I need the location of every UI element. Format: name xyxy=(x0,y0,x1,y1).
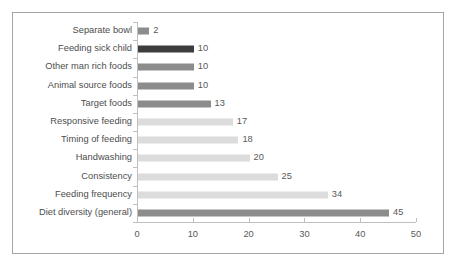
bar-value-label: 2 xyxy=(153,26,158,35)
x-axis-tick xyxy=(137,218,138,222)
y-axis-tick xyxy=(133,222,137,223)
y-axis-tick xyxy=(133,113,137,114)
bar xyxy=(138,191,328,198)
category-label: Separate bowl xyxy=(14,26,132,35)
y-axis-tick xyxy=(133,167,137,168)
bar-value-label: 34 xyxy=(332,190,342,199)
y-axis-tick xyxy=(133,95,137,96)
y-axis-tick xyxy=(133,149,137,150)
bar xyxy=(138,155,250,162)
bar xyxy=(138,46,194,53)
x-axis-tick-label: 40 xyxy=(345,230,375,239)
x-axis-tick xyxy=(360,218,361,222)
x-axis-tick xyxy=(193,218,194,222)
category-label: Target foods xyxy=(14,99,132,108)
bar-value-label: 10 xyxy=(198,63,208,72)
bar xyxy=(138,82,194,89)
bar-value-label: 18 xyxy=(242,136,252,145)
y-axis-tick xyxy=(133,58,137,59)
category-label: Handwashing xyxy=(14,154,132,163)
y-axis-tick xyxy=(133,22,137,23)
category-label: Animal source foods xyxy=(14,81,132,90)
bar xyxy=(138,137,238,144)
x-axis-line xyxy=(137,222,416,223)
category-label: Consistency xyxy=(14,172,132,181)
x-axis-tick-label: 0 xyxy=(122,230,152,239)
x-axis-tick xyxy=(304,218,305,222)
bar-value-label: 25 xyxy=(282,172,292,181)
x-axis-tick-label: 50 xyxy=(401,230,431,239)
bar xyxy=(138,64,194,71)
y-axis-tick xyxy=(133,204,137,205)
y-axis-tick xyxy=(133,77,137,78)
category-label: Diet diversity (general) xyxy=(14,208,132,217)
y-axis-tick xyxy=(133,40,137,41)
bar-value-label: 45 xyxy=(393,208,403,217)
category-label: Feeding sick child xyxy=(14,45,132,54)
bar-value-label: 10 xyxy=(198,81,208,90)
y-axis-tick xyxy=(133,131,137,132)
bar-chart: 01020304050 Separate bowlFeeding sick ch… xyxy=(0,0,456,267)
bar-value-label: 10 xyxy=(198,45,208,54)
x-axis-tick xyxy=(416,218,417,222)
bar-value-label: 17 xyxy=(237,117,247,126)
bar xyxy=(138,100,211,107)
category-label: Timing of feeding xyxy=(14,136,132,145)
x-axis-tick xyxy=(249,218,250,222)
bar xyxy=(138,119,233,126)
category-label: Feeding frequency xyxy=(14,190,132,199)
category-label: Other man rich foods xyxy=(14,63,132,72)
bar-value-label: 13 xyxy=(215,99,225,108)
x-axis-tick-label: 10 xyxy=(178,230,208,239)
x-axis-tick-label: 30 xyxy=(289,230,319,239)
bar xyxy=(138,28,149,35)
y-axis-tick xyxy=(133,186,137,187)
bar-value-label: 20 xyxy=(254,154,264,163)
bar xyxy=(138,209,389,216)
bar xyxy=(138,173,278,180)
x-axis-tick-label: 20 xyxy=(234,230,264,239)
category-label: Responsive feeding xyxy=(14,117,132,126)
